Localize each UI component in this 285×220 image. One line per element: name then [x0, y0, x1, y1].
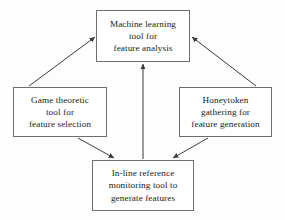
edge-honeytoken-to-ml: [192, 37, 256, 86]
node-inline-line-1: In-line reference: [112, 167, 175, 179]
node-ml-line-2: tool for: [129, 30, 157, 42]
node-machine-learning-tool: Machine learning tool for feature analys…: [96, 10, 190, 62]
node-honey-line-1: Honeytoken: [203, 94, 249, 106]
edge-honeytoken-to-inline: [173, 138, 208, 158]
node-inline-line-3: generate features: [111, 192, 175, 204]
edge-game-to-inline: [78, 138, 114, 158]
node-game-line-1: Game theoretic: [31, 94, 89, 106]
node-game-theoretic-tool: Game theoretic tool for feature selectio…: [13, 87, 107, 137]
node-honeytoken-gathering: Honeytoken gathering for feature generat…: [179, 87, 272, 137]
node-honey-line-3: feature generation: [191, 118, 259, 130]
node-game-line-2: tool for: [46, 106, 74, 118]
edge-game-to-ml: [29, 37, 95, 86]
node-inline-line-2: monitoring tool to: [109, 179, 178, 191]
node-honey-line-2: gathering for: [201, 106, 250, 118]
node-ml-line-1: Machine learning: [110, 18, 176, 30]
node-game-line-3: feature selection: [29, 118, 91, 130]
node-ml-line-3: feature analysis: [114, 42, 173, 54]
node-in-line-reference-monitoring-tool: In-line reference monitoring tool to gen…: [92, 160, 194, 211]
flow-diagram: Machine learning tool for feature analys…: [0, 0, 285, 220]
